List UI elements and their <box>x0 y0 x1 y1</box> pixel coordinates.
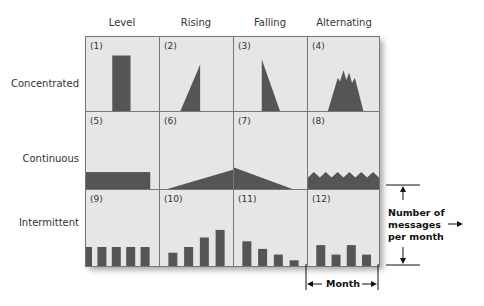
pattern-graphic <box>160 190 233 266</box>
falling-wedge-shape <box>234 167 292 189</box>
row-header-concentrated: Concentrated <box>11 78 79 89</box>
message-bar <box>274 255 283 266</box>
flat-block-shape <box>86 172 150 189</box>
bars-shape <box>86 247 150 266</box>
pattern-graphic <box>160 37 233 111</box>
pattern-graphic <box>86 37 159 111</box>
pattern-cell-11: (11) <box>233 189 308 267</box>
pattern-cell-8: (8) <box>307 111 380 190</box>
pattern-cell-2: (2) <box>159 36 234 112</box>
month-label: Month <box>326 278 360 290</box>
down-arrowhead-icon <box>400 258 406 264</box>
column-header-alternating: Alternating <box>307 17 381 28</box>
message-bar <box>86 247 92 266</box>
pattern-graphic <box>308 37 379 111</box>
falling-triangle-shape <box>262 59 280 111</box>
message-bar <box>97 247 106 266</box>
pattern-cell-9: (9) <box>85 189 160 267</box>
pattern-graphic <box>234 112 307 189</box>
pattern-graphic <box>160 112 233 189</box>
pattern-cell-12: (12) <box>307 189 380 267</box>
pattern-cell-10: (10) <box>159 189 234 267</box>
message-bar <box>258 249 267 266</box>
bars-shape <box>242 241 298 266</box>
pattern-graphic <box>234 37 307 111</box>
right-arrowhead-icon <box>371 281 377 287</box>
message-bar <box>200 238 209 267</box>
column-header-level: Level <box>85 17 159 28</box>
message-bar <box>168 253 177 266</box>
column-header-falling: Falling <box>233 17 307 28</box>
jagged-peak-shape <box>328 70 364 111</box>
message-bar <box>141 247 150 266</box>
pattern-cell-7: (7) <box>233 111 308 190</box>
zigzag-band-shape <box>308 172 379 189</box>
pattern-cell-6: (6) <box>159 111 234 190</box>
pattern-graphic <box>86 112 159 189</box>
right-arrowhead-icon <box>457 221 463 227</box>
message-bar <box>126 247 135 266</box>
message-bar <box>184 247 193 266</box>
pattern-grid: (1)(2)(3)(4)(5)(6)(7)(8)(9)(10)(11)(12) <box>85 36 379 266</box>
up-arrowhead-icon <box>400 186 406 192</box>
bars-shape <box>168 230 224 266</box>
rising-wedge-shape <box>167 170 233 189</box>
message-bar <box>216 230 225 266</box>
pattern-cell-1: (1) <box>85 36 160 112</box>
column-header-rising: Rising <box>159 17 233 28</box>
message-bar <box>290 260 299 266</box>
message-bar <box>242 241 251 266</box>
rising-triangle-shape <box>180 64 200 111</box>
pattern-graphic <box>234 190 307 266</box>
left-arrowhead-icon <box>307 281 313 287</box>
bar-shape <box>112 56 130 112</box>
pattern-cell-4: (4) <box>307 36 380 112</box>
pattern-graphic <box>86 190 159 266</box>
row-header-intermittent: Intermittent <box>19 217 79 228</box>
pattern-cell-3: (3) <box>233 36 308 112</box>
messages-per-month-label: Number of messages per month <box>388 207 448 243</box>
pattern-graphic <box>308 190 379 266</box>
message-bar <box>112 247 121 266</box>
row-header-continuous: Continuous <box>23 153 79 164</box>
pattern-graphic <box>308 112 379 189</box>
pattern-cell-5: (5) <box>85 111 160 190</box>
